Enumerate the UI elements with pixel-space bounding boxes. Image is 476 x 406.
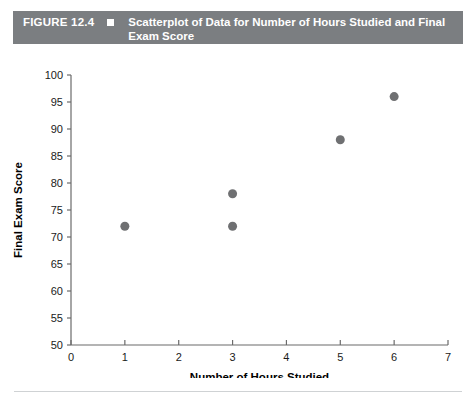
- y-tick-label: 95: [51, 96, 63, 108]
- data-points-group: [120, 92, 398, 231]
- y-tick-label: 75: [51, 204, 63, 216]
- y-axis: 50556065707580859095100: [45, 69, 71, 351]
- data-point: [228, 189, 237, 198]
- x-tick-label: 5: [337, 351, 343, 363]
- square-bullet-icon: [107, 19, 114, 26]
- x-tick-label: 7: [445, 351, 451, 363]
- y-tick-label: 50: [51, 339, 63, 351]
- y-tick-label: 60: [51, 285, 63, 297]
- data-point: [228, 222, 237, 231]
- x-axis: 01234567: [68, 340, 451, 363]
- data-point: [390, 92, 399, 101]
- x-tick-label: 4: [283, 351, 289, 363]
- x-tick-label: 6: [391, 351, 397, 363]
- figure-title-text: Scatterplot of Data for Number of Hours …: [128, 16, 457, 43]
- x-tick-label: 1: [122, 351, 128, 363]
- y-tick-label: 65: [51, 258, 63, 270]
- data-point: [336, 135, 345, 144]
- y-tick-label: 70: [51, 231, 63, 243]
- figure-caption-band: FIGURE 12.4 Scatterplot of Data for Numb…: [13, 11, 463, 44]
- x-tick-label: 2: [176, 351, 182, 363]
- y-tick-label: 55: [51, 312, 63, 324]
- bottom-divider: [14, 391, 462, 392]
- y-tick-label: 80: [51, 177, 63, 189]
- x-axis-title: Number of Hours Studied: [190, 371, 329, 378]
- x-tick-label: 3: [230, 351, 236, 363]
- y-tick-label: 90: [51, 123, 63, 135]
- y-tick-label: 85: [51, 150, 63, 162]
- scatterplot-svg: 50556065707580859095100 01234567 Number …: [0, 48, 476, 378]
- y-axis-title: Final Exam Score: [12, 162, 24, 258]
- x-tick-label: 0: [68, 351, 74, 363]
- scatterplot-container: 50556065707580859095100 01234567 Number …: [0, 48, 476, 378]
- data-point: [120, 222, 129, 231]
- y-tick-label: 100: [45, 69, 63, 81]
- figure-number-label: FIGURE 12.4: [23, 16, 94, 29]
